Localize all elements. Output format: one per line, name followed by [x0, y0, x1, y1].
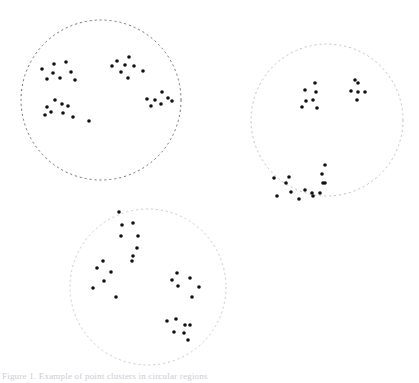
data-point	[145, 97, 149, 101]
scatter-plot	[0, 0, 419, 383]
data-point	[135, 246, 139, 250]
data-point	[58, 76, 62, 80]
data-point	[101, 259, 105, 263]
data-point	[119, 70, 123, 74]
data-point	[165, 319, 169, 323]
data-point	[314, 90, 318, 94]
data-point	[183, 323, 187, 327]
data-point	[52, 62, 56, 66]
data-point	[320, 172, 324, 176]
data-point	[175, 271, 179, 275]
data-point	[166, 96, 170, 100]
plot-background	[0, 0, 419, 383]
data-point	[190, 295, 194, 299]
data-point	[300, 105, 304, 109]
data-point	[172, 330, 176, 334]
data-point	[53, 98, 57, 102]
data-point	[176, 284, 180, 288]
data-point	[323, 163, 327, 167]
data-point	[186, 338, 190, 342]
data-point	[174, 317, 178, 321]
figure-caption: Figure 1. Example of point clusters in c…	[2, 371, 208, 382]
data-point	[303, 88, 307, 92]
data-point	[188, 323, 192, 327]
data-point	[66, 104, 70, 108]
data-point	[69, 70, 73, 74]
data-point	[49, 110, 53, 114]
data-point	[73, 78, 77, 82]
data-point	[131, 221, 135, 225]
data-point	[303, 188, 307, 192]
data-point	[45, 105, 49, 109]
data-point	[159, 102, 163, 106]
data-point	[136, 234, 140, 238]
data-point	[353, 78, 357, 82]
data-point	[188, 276, 192, 280]
data-point	[275, 194, 279, 198]
data-point	[289, 190, 293, 194]
data-point	[117, 210, 121, 214]
data-point	[60, 102, 64, 106]
data-point	[272, 176, 276, 180]
data-point	[114, 295, 118, 299]
data-point	[170, 278, 174, 282]
data-point	[126, 76, 130, 80]
caption-strip: Figure 1. Example of point clusters in c…	[0, 371, 419, 383]
data-point	[310, 191, 314, 195]
data-point	[149, 104, 153, 108]
data-point	[315, 106, 319, 110]
data-point	[64, 60, 68, 64]
data-point	[160, 90, 164, 94]
data-point	[119, 234, 123, 238]
data-point	[287, 175, 291, 179]
data-point	[349, 89, 353, 93]
data-point	[102, 279, 106, 283]
data-point	[91, 286, 95, 290]
data-point	[51, 71, 55, 75]
data-point	[313, 81, 317, 85]
data-point	[297, 197, 301, 201]
data-point	[356, 81, 360, 85]
data-point	[130, 259, 134, 263]
data-point	[43, 113, 47, 117]
data-point	[355, 98, 359, 102]
data-point	[197, 285, 201, 289]
data-point	[153, 98, 157, 102]
data-point	[356, 90, 360, 94]
data-point	[132, 64, 136, 68]
data-point	[40, 67, 44, 71]
data-point	[170, 99, 174, 103]
figure-canvas	[0, 0, 419, 383]
data-point	[127, 55, 131, 59]
data-point	[110, 64, 114, 68]
data-point	[61, 111, 65, 115]
data-point	[87, 119, 91, 123]
data-point	[109, 270, 113, 274]
data-point	[141, 69, 145, 73]
data-point	[123, 63, 127, 67]
data-point	[304, 99, 308, 103]
data-point	[284, 181, 288, 185]
data-point	[71, 115, 75, 119]
data-point	[182, 331, 186, 335]
data-point	[115, 59, 119, 63]
data-point	[311, 98, 315, 102]
data-point	[45, 77, 49, 81]
data-point	[120, 223, 124, 227]
data-point	[321, 181, 325, 185]
data-point	[363, 90, 367, 94]
data-point	[318, 191, 322, 195]
data-point	[95, 266, 99, 270]
data-point	[131, 254, 135, 258]
